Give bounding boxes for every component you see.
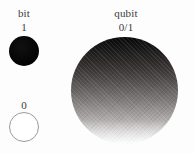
qubit-gradient-sphere xyxy=(71,37,178,144)
bit-state-one-label: 1 xyxy=(0,22,48,33)
qubit-sphere-grain-overlay xyxy=(71,37,178,144)
qubit-column-title: qubit xyxy=(88,8,164,19)
bit-state-zero-label: 0 xyxy=(0,100,48,111)
qubit-sphere-bottom-fade xyxy=(71,37,178,144)
bit-vs-qubit-figure: bit 1 0 qubit 0/1 xyxy=(0,0,194,153)
bit-column-title: bit xyxy=(0,8,48,19)
qubit-state-superposition-label: 0/1 xyxy=(88,22,164,33)
bit-state-zero-outlined-circle xyxy=(9,112,39,142)
bit-state-one-filled-circle xyxy=(9,36,39,66)
